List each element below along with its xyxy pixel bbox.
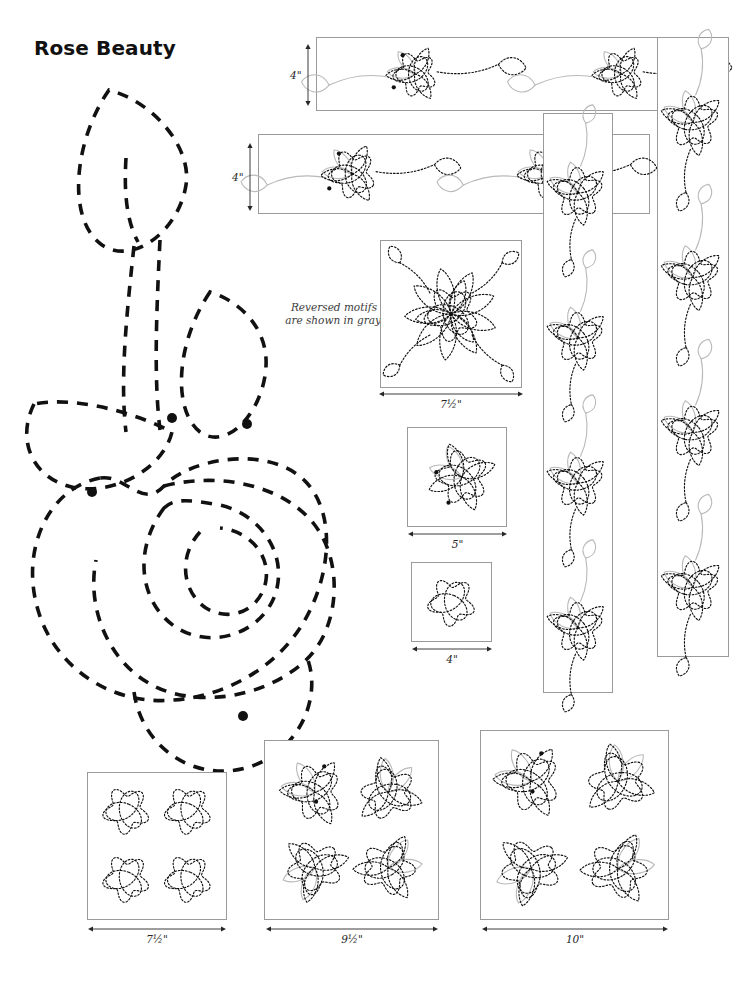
dimension-block-75-grid-width: 7½" (88, 928, 226, 929)
dimension-top-border-height: 4" (307, 44, 308, 106)
dimension-block-95-wreath-width: 9½" (266, 928, 438, 929)
dimension-label: 4" (232, 171, 244, 183)
dimension-label: 10" (566, 933, 584, 945)
block-rose-wreath-10 (480, 730, 669, 920)
border-strip-vertical-inner (543, 113, 613, 693)
dimension-label: 7½" (146, 933, 168, 945)
dimension-label: 9½" (341, 933, 363, 945)
block-rose-wreath-9-5 (264, 740, 439, 920)
dimension-block-4-width: 4" (412, 648, 492, 649)
pattern-sheet: Rose Beauty Reversed motifs are shown in… (0, 0, 751, 988)
dimension-label: 4" (290, 69, 302, 81)
dimension-block-5-width: 5" (408, 533, 507, 534)
block-rose-7-5-inch (380, 240, 522, 388)
page-title: Rose Beauty (34, 36, 176, 60)
dimension-block-75-width: 7½" (379, 393, 523, 394)
border-strip-vertical-outer (657, 37, 729, 657)
dimension-block-10-wreath-width: 10" (482, 928, 668, 929)
dimension-label: 5" (452, 538, 464, 550)
dimension-label: 7½" (440, 398, 462, 410)
block-rose-5-inch (407, 427, 507, 527)
dimension-label: 4" (446, 653, 458, 665)
dimension-second-border-height: 4" (249, 143, 250, 211)
block-four-rose-grid (87, 772, 227, 920)
block-rose-4-inch (411, 562, 492, 642)
